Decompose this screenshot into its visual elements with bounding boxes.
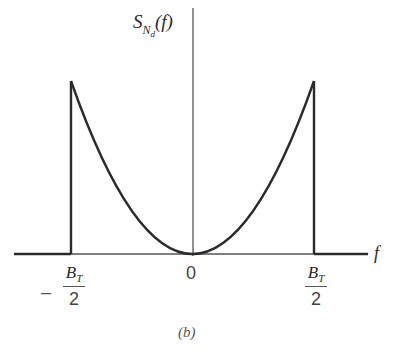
y-axis-label: SNd(f) bbox=[133, 12, 173, 31]
figure-caption: (b) bbox=[178, 325, 196, 340]
tick-label-pos-half-bandwidth: BT 2 bbox=[296, 264, 336, 308]
fraction-bar bbox=[63, 286, 85, 287]
x-axis-label: f bbox=[374, 244, 379, 262]
tick-left-minus-sign: – bbox=[41, 283, 51, 301]
tick-label-neg-half-bandwidth: BT 2 bbox=[54, 264, 94, 308]
tick-label-zero: 0 bbox=[186, 264, 196, 282]
psd-diagram: SNd(f) f – BT 2 0 BT 2 (b) bbox=[0, 0, 395, 359]
fraction-bar bbox=[305, 286, 327, 287]
